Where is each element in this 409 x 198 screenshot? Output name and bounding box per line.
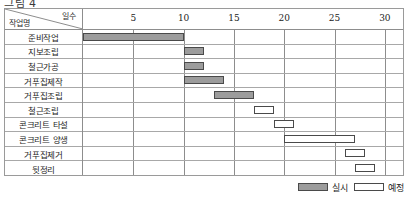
task-label-text: 지보조립 — [28, 45, 59, 57]
task-label-text: 준비작업 — [28, 31, 59, 43]
task-label-cell: 철근가공 — [5, 59, 82, 74]
header-days-label: 일수 — [62, 10, 76, 21]
gantt-bar-actual[interactable] — [184, 47, 204, 55]
task-label-text: 거푸집제거 — [24, 148, 63, 160]
gantt-bar-actual[interactable] — [83, 33, 184, 41]
gantt-bar-planned[interactable] — [355, 164, 375, 172]
axis-tick-30: 30 — [379, 13, 390, 23]
axis-tick-20: 20 — [279, 13, 290, 23]
gantt-header-row: 일수 작업명 51015202530 — [5, 9, 403, 30]
gantt-row — [83, 59, 403, 74]
axis-tick-10: 10 — [178, 13, 189, 23]
legend-swatch-actual-icon — [298, 183, 328, 191]
gantt-row-container — [83, 30, 403, 176]
task-label-cell: 철근조립 — [5, 103, 82, 118]
gantt-table: 일수 작업명 51015202530 준비작업지보조립철근가공거푸집제작거푸집조… — [4, 8, 404, 176]
legend-item-actual: 실시 — [298, 181, 348, 194]
task-label-cell: 콘크리트 양생 — [5, 132, 82, 147]
axis-tick-25: 25 — [329, 13, 340, 23]
task-label-text: 콘크리트 양생 — [19, 133, 68, 145]
gantt-bar-planned[interactable] — [284, 135, 354, 143]
legend-swatch-planned-icon — [354, 183, 384, 191]
header-task-label: 작업명 — [9, 17, 30, 28]
gantt-row — [83, 161, 403, 176]
gantt-row — [83, 45, 403, 60]
task-label-text: 거푸집조립 — [24, 89, 63, 101]
axis-tick-15: 15 — [228, 13, 239, 23]
legend-label-planned: 예정 — [388, 181, 404, 194]
gantt-row — [83, 103, 403, 118]
gantt-chart: 일수 작업명 51015202530 준비작업지보조립철근가공거푸집제작거푸집조… — [4, 8, 404, 176]
header-corner-cell: 일수 작업명 — [5, 9, 83, 29]
gantt-bar-actual[interactable] — [184, 62, 204, 70]
gantt-row — [83, 132, 403, 147]
task-label-cell: 콘크리트 타설 — [5, 118, 82, 133]
task-label-cell: 지보조립 — [5, 45, 82, 60]
task-label-text: 콘크리트 타설 — [19, 118, 68, 130]
gantt-row — [83, 118, 403, 133]
gantt-row — [83, 147, 403, 162]
axis-tick-5: 5 — [130, 13, 136, 23]
task-label-cell: 거푸집제작 — [5, 74, 82, 89]
task-label-cell: 거푸집제거 — [5, 147, 82, 162]
task-label-cell: 준비작업 — [5, 30, 82, 45]
task-label-column: 준비작업지보조립철근가공거푸집제작거푸집조립철근조립콘크리트 타설콘크리트 양생… — [5, 30, 83, 175]
task-label-text: 철근가공 — [28, 60, 59, 72]
task-label-cell: 뒷정리 — [5, 161, 82, 176]
gantt-bar-planned[interactable] — [345, 149, 365, 157]
task-label-cell: 거푸집조립 — [5, 88, 82, 103]
chart-legend: 실시 예정 — [4, 180, 404, 194]
gantt-grid-area — [83, 30, 403, 175]
gantt-bar-planned[interactable] — [274, 120, 294, 128]
gantt-row — [83, 88, 403, 103]
task-label-text: 거푸집제작 — [24, 75, 63, 87]
gantt-row — [83, 74, 403, 89]
gantt-row — [83, 30, 403, 45]
legend-item-planned: 예정 — [354, 181, 404, 194]
gantt-bar-actual[interactable] — [214, 91, 254, 99]
gantt-bar-actual[interactable] — [184, 76, 224, 84]
task-label-text: 뒷정리 — [32, 163, 55, 175]
legend-label-actual: 실시 — [332, 181, 348, 194]
gantt-bar-planned[interactable] — [254, 106, 274, 114]
task-label-text: 철근조립 — [28, 104, 59, 116]
